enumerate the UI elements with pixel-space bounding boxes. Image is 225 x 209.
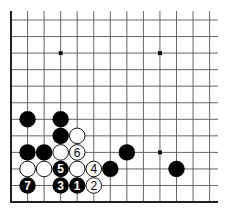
move-number-label: 2 xyxy=(90,179,97,193)
black-stone-disc xyxy=(52,128,68,144)
black-stone xyxy=(19,111,35,127)
black-stone-disc xyxy=(168,161,184,177)
star-point xyxy=(158,150,162,154)
white-stone xyxy=(53,145,69,161)
white-stone: 6 xyxy=(69,145,85,161)
black-stone: 7 xyxy=(19,177,35,193)
move-number-label: 3 xyxy=(57,179,64,193)
black-stone xyxy=(52,128,68,144)
black-stone-disc xyxy=(19,144,35,160)
black-stone-disc xyxy=(36,144,52,160)
black-stone xyxy=(119,144,135,160)
white-stone xyxy=(69,161,85,177)
move-number-label: 1 xyxy=(74,179,81,193)
black-stone xyxy=(36,144,52,160)
white-stone: 2 xyxy=(86,178,102,194)
white-stone xyxy=(69,128,85,144)
white-stone xyxy=(36,161,52,177)
star-point xyxy=(59,51,63,55)
black-stone: 5 xyxy=(52,161,68,177)
move-number-label: 6 xyxy=(74,146,81,160)
black-stone xyxy=(102,161,118,177)
white-stone-disc xyxy=(20,161,36,177)
move-number-label: 5 xyxy=(57,162,64,176)
white-stone-disc xyxy=(36,161,52,177)
white-stone xyxy=(20,161,36,177)
go-board: 6547312 xyxy=(0,0,225,209)
black-stone-disc xyxy=(119,144,135,160)
white-stone-disc xyxy=(69,161,85,177)
move-number-label: 7 xyxy=(24,179,31,193)
black-stone xyxy=(19,144,35,160)
black-stone-disc xyxy=(52,111,68,127)
move-number-label: 4 xyxy=(90,162,97,176)
black-stone xyxy=(52,111,68,127)
white-stone: 4 xyxy=(86,161,102,177)
white-stone-disc xyxy=(53,145,69,161)
black-stone xyxy=(168,161,184,177)
black-stone-disc xyxy=(19,111,35,127)
black-stone: 1 xyxy=(69,177,85,193)
black-stone-disc xyxy=(102,161,118,177)
star-point xyxy=(158,51,162,55)
black-stone: 3 xyxy=(52,177,68,193)
white-stone-disc xyxy=(69,128,85,144)
